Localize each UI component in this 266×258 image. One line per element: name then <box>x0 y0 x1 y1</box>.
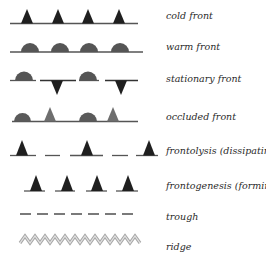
label-ridge: ridge <box>166 241 191 253</box>
label-warm-front: warm front <box>166 41 220 53</box>
label-occluded-front: occluded front <box>166 111 236 123</box>
label-frontogenesis: frontogenesis (forming) <box>166 180 266 192</box>
label-cold-front: cold front <box>166 10 213 22</box>
cold-front-symbol <box>10 9 138 24</box>
label-stationary-front: stationary front <box>166 73 241 85</box>
front-symbols-diagram <box>0 0 266 258</box>
label-frontolysis: frontolysis (dissipating) <box>166 145 266 157</box>
frontogenesis-symbol <box>24 175 138 191</box>
ridge-symbol <box>20 236 140 243</box>
frontolysis-symbol <box>10 140 158 156</box>
stationary-front-symbol <box>10 72 138 96</box>
warm-front-symbol <box>10 43 143 52</box>
label-trough: trough <box>166 211 198 223</box>
occluded-front-symbol <box>12 107 138 122</box>
